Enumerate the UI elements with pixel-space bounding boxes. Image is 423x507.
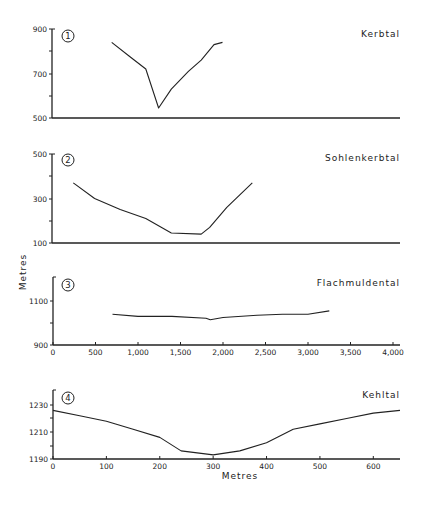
y-tick-label: 900 (33, 25, 48, 34)
y-tick-label: 900 (34, 341, 49, 350)
y-tick-label: 1190 (29, 455, 48, 464)
panel-title: Sohlenkerbtal (325, 153, 400, 163)
y-tick-label: 500 (33, 150, 48, 159)
x-tick-label: 3,000 (297, 348, 319, 357)
x-tick-label: 0 (51, 462, 56, 471)
valley-profile-line (112, 42, 223, 108)
panel-3: 110090005001,0001,5002,0002,5003,0003,50… (29, 277, 404, 357)
valley-profiles-figure: Metres 9007005001Kerbtal5003001002Sohlen… (0, 0, 423, 507)
y-tick-label: 500 (33, 114, 48, 123)
x-tick-label: 2,000 (212, 348, 234, 357)
x-tick-label: 500 (88, 348, 103, 357)
x-tick-label: 300 (206, 462, 221, 471)
panel-number: 3 (65, 280, 70, 290)
panel-number: 2 (65, 155, 70, 165)
panel-title: Flachmuldental (317, 278, 400, 288)
x-tick-label: 0 (51, 348, 56, 357)
valley-profile-line (113, 311, 330, 320)
x-axis-label: Metres (222, 471, 259, 481)
panel-number: 1 (65, 31, 70, 41)
y-axis-label: Metres (18, 254, 28, 291)
x-tick-label: 2,500 (255, 348, 277, 357)
x-tick-label: 1,000 (127, 348, 149, 357)
y-tick-label: 1230 (29, 401, 48, 410)
x-tick-label: 4,000 (382, 348, 404, 357)
panel-number: 4 (65, 393, 70, 403)
y-tick-label: 1210 (29, 428, 48, 437)
y-tick-label: 1100 (29, 297, 48, 306)
x-tick-label: 400 (259, 462, 274, 471)
y-tick-label: 300 (33, 195, 48, 204)
panel-2: 5003001002Sohlenkerbtal (33, 150, 400, 248)
panel-1: 9007005001Kerbtal (33, 25, 400, 123)
y-tick-label: 100 (33, 239, 48, 248)
x-tick-label: 100 (99, 462, 114, 471)
panel-title: Kerbtal (361, 29, 400, 39)
panels: 9007005001Kerbtal5003001002Sohlenkerbtal… (29, 25, 404, 471)
y-tick-label: 700 (33, 70, 48, 79)
valley-profile-line (73, 183, 252, 234)
valley-profile-line (53, 410, 400, 455)
x-tick-label: 200 (153, 462, 168, 471)
x-tick-label: 3,500 (340, 348, 362, 357)
x-tick-label: 500 (313, 462, 328, 471)
panel-title: Kehltal (362, 390, 400, 400)
x-tick-label: 1,500 (170, 348, 192, 357)
x-tick-label: 600 (366, 462, 381, 471)
panel-4: 12301210119001002003004005006004Kehltal (29, 390, 400, 471)
